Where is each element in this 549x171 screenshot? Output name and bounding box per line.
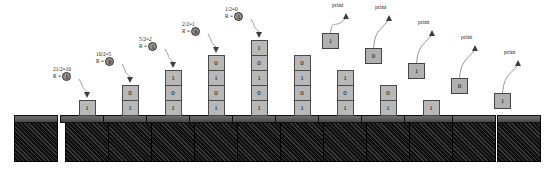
- stack-block: 1: [337, 70, 354, 86]
- stack-base-push-1: [65, 122, 109, 162]
- stack-block: 1: [208, 70, 225, 86]
- stack-block: 0: [380, 85, 397, 101]
- remainder-row: R = 1: [139, 42, 157, 51]
- stack-block: 0: [251, 55, 268, 71]
- remainder-prefix: R =: [139, 43, 148, 49]
- stack-cap-empty-stack: [14, 115, 58, 123]
- remainder-value: 1: [148, 42, 157, 51]
- stack-block: 0: [208, 85, 225, 101]
- popped-block: 1: [408, 63, 425, 79]
- remainder-prefix: R =: [96, 58, 105, 64]
- stack-cap-pop-4: [404, 115, 458, 123]
- remainder-row: R = 0: [182, 27, 200, 36]
- stack-base-push-4: [194, 122, 238, 162]
- stack-block: 1: [294, 100, 311, 116]
- stack-base-pop-5: [452, 122, 496, 162]
- stack-block: 1: [122, 100, 139, 116]
- division-label-push-1: 21/2=10R = 1: [53, 66, 71, 81]
- stack-block: 0: [294, 55, 311, 71]
- stack-block: 1: [251, 70, 268, 86]
- print-label: print: [375, 4, 386, 10]
- remainder-row: R = 1: [53, 72, 71, 81]
- stack-base-push-3: [151, 122, 195, 162]
- stack-base-push-2: [108, 122, 152, 162]
- stack-block: 1: [423, 100, 440, 116]
- stack-block: 0: [122, 85, 139, 101]
- division-label-push-5: 1/2=0R = 1: [225, 6, 243, 21]
- stack-block: 1: [165, 100, 182, 116]
- stack-block: 1: [294, 70, 311, 86]
- stack-block: 1: [165, 70, 182, 86]
- stack-block: 1: [251, 100, 268, 116]
- popped-block: 0: [365, 48, 382, 64]
- remainder-prefix: R =: [225, 13, 234, 19]
- stack-block: 0: [294, 85, 311, 101]
- stack-base-push-5: [237, 122, 281, 162]
- popped-block: 1: [322, 33, 339, 49]
- stack-base-empty-after-pop: [497, 122, 541, 162]
- stack-block: 0: [251, 85, 268, 101]
- popped-block: 1: [494, 93, 511, 109]
- stack-cap-empty-after-pop: [497, 115, 541, 123]
- division-label-push-3: 5/2=2R = 1: [139, 36, 157, 51]
- stack-cap-pop-5: [452, 115, 496, 123]
- binary-stack-diagram: 121/2=10R = 10110/2=5R = 01015/2=2R = 10…: [0, 0, 549, 171]
- stack-base-pop-3: [366, 122, 410, 162]
- stack-block: 0: [208, 55, 225, 71]
- remainder-value: 0: [191, 27, 200, 36]
- stack-block: 1: [380, 100, 397, 116]
- remainder-value: 1: [62, 72, 71, 81]
- remainder-row: R = 1: [225, 12, 243, 21]
- remainder-prefix: R =: [182, 28, 191, 34]
- remainder-row: R = 0: [96, 57, 114, 66]
- stack-block: 1: [337, 100, 354, 116]
- print-label: print: [504, 49, 515, 55]
- stack-base-pop-1: [280, 122, 324, 162]
- stack-base-empty-stack: [14, 122, 58, 162]
- remainder-value: 1: [234, 12, 243, 21]
- popped-block: 0: [451, 78, 468, 94]
- stack-block: 1: [79, 100, 96, 116]
- stack-base-pop-2: [323, 122, 367, 162]
- stack-base-pop-4: [409, 122, 453, 162]
- stack-block: 0: [165, 85, 182, 101]
- print-label: print: [332, 2, 343, 8]
- remainder-prefix: R =: [53, 73, 62, 79]
- print-label: print: [461, 34, 472, 40]
- stack-block: 1: [251, 40, 268, 56]
- stack-block: 1: [208, 100, 225, 116]
- division-label-push-4: 2/2=1R = 0: [182, 21, 200, 36]
- remainder-value: 0: [105, 57, 114, 66]
- stack-block: 0: [337, 85, 354, 101]
- print-label: print: [418, 19, 429, 25]
- division-label-push-2: 10/2=5R = 0: [96, 51, 114, 66]
